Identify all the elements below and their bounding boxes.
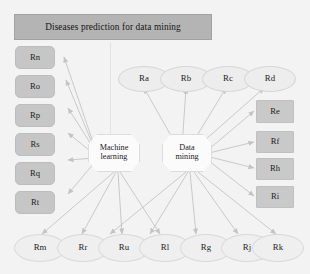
machine-learning-line2: learning: [100, 153, 129, 162]
diagram-canvas: Diseases prediction for data mining Rn R…: [0, 0, 310, 274]
data-mining-line2: mining: [175, 153, 198, 162]
node-re[interactable]: Re: [256, 100, 294, 123]
node-rf[interactable]: Rf: [256, 131, 294, 153]
node-rd[interactable]: Rd: [244, 66, 296, 92]
page-title: Diseases prediction for data mining: [14, 14, 212, 40]
node-rk[interactable]: Rk: [252, 234, 304, 262]
node-rn[interactable]: Rn: [15, 46, 55, 69]
node-machine-learning[interactable]: Machine learning: [88, 134, 140, 172]
node-rq[interactable]: Rq: [15, 162, 55, 185]
node-ri[interactable]: Ri: [256, 186, 294, 208]
node-rp[interactable]: Rp: [15, 104, 55, 127]
node-rh[interactable]: Rh: [256, 158, 294, 180]
node-rt[interactable]: Rt: [15, 191, 55, 214]
node-rs[interactable]: Rs: [15, 133, 55, 156]
node-ro[interactable]: Ro: [15, 75, 55, 98]
node-data-mining[interactable]: Data mining: [162, 134, 212, 172]
